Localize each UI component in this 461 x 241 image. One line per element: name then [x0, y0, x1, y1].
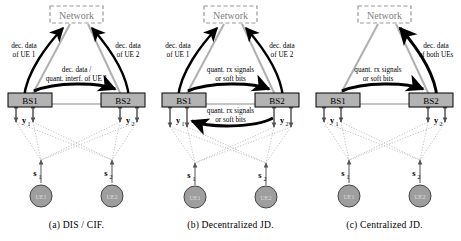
svg-text:of UE 2: of UE 2 — [271, 51, 294, 59]
bs1-label: BS1 — [22, 96, 38, 106]
ue1-signal-sub: 1 — [39, 174, 42, 180]
panel-dis-cif: Network dec. data of UE 1 dec. data of U… — [0, 0, 153, 241]
inter-bs-label: quant. rx signals or soft bits — [354, 66, 402, 83]
ue2-signal-label: s — [412, 168, 416, 178]
user-equipment-1: s 1 UE1 — [338, 160, 360, 207]
svg-text:dec. data: dec. data — [269, 42, 295, 50]
inter-bs-arrow — [342, 84, 423, 91]
ue1-signal-label: s — [33, 168, 37, 178]
svg-text:dec. data /: dec. data / — [62, 66, 91, 74]
svg-text:dec. data: dec. data — [11, 42, 37, 50]
svg-text:or soft bits: or soft bits — [215, 116, 246, 124]
channel-links — [324, 122, 445, 160]
inter-bs-label-upper: quant. rx signals or soft bits — [207, 66, 255, 83]
user-equipment-2: s 2 UE2 — [409, 160, 431, 207]
svg-text:of UE 1: of UE 1 — [13, 51, 36, 59]
bs1-signal-sub: 1 — [28, 121, 31, 127]
panel-c-caption: (c) Centralized JD. — [308, 219, 461, 230]
inter-bs-label: dec. data / quant. interf. of UE 1 — [46, 66, 108, 83]
ue1-signal-sub: 1 — [193, 176, 196, 182]
ue1-signal-label: s — [187, 170, 191, 180]
bs1-signal-sub: 1 — [182, 121, 185, 127]
figure-cooperative-detection-architectures: Network dec. data of UE 1 dec. data of U… — [0, 0, 461, 241]
inter-bs-label-lower: quant. rx signals or soft bits — [207, 107, 255, 124]
ue1-signal-label: s — [341, 168, 345, 178]
ue2-signal-sub: 2 — [110, 174, 113, 180]
ue2-signal-sub: 2 — [418, 174, 421, 180]
bs2-signal-label: y — [280, 115, 285, 125]
base-station-2: BS2 y 2 — [409, 93, 453, 127]
svg-text:or soft bits: or soft bits — [363, 75, 394, 83]
base-station-2: BS2 y 2 — [101, 93, 145, 127]
network-label: Network — [367, 10, 402, 21]
network-node: Network — [358, 6, 411, 23]
uplink-label-left: dec. data of UE 1 — [11, 42, 37, 59]
svg-text:dec. data: dec. data — [423, 42, 449, 50]
bs1-signal-label: y — [330, 115, 335, 125]
network-label: Network — [59, 10, 94, 21]
svg-text:dec. data: dec. data — [115, 42, 141, 50]
svg-text:quant. rx signals: quant. rx signals — [207, 66, 255, 74]
bs2-signal-sub: 2 — [440, 121, 443, 127]
uplink-label-right: dec. data of UE 2 — [269, 42, 295, 59]
svg-text:of UE 2: of UE 2 — [117, 51, 140, 59]
ue2-signal-sub: 2 — [264, 176, 267, 182]
svg-text:quant. rx signals: quant. rx signals — [207, 107, 255, 115]
user-equipment-1: s 1 UE1 — [184, 163, 206, 208]
network-node: Network — [50, 6, 103, 23]
ue1-label: UE1 — [190, 195, 201, 201]
inter-bs-arrow — [34, 84, 115, 91]
bs1-signal-label: y — [22, 115, 27, 125]
ue1-signal-sub: 1 — [347, 174, 350, 180]
bs1-signal-sub: 1 — [336, 121, 339, 127]
bs2-label: BS2 — [115, 96, 131, 106]
bs2-signal-label: y — [126, 115, 131, 125]
svg-text:of UE 1: of UE 1 — [167, 51, 190, 59]
base-station-1: BS1 y 1 — [8, 93, 52, 127]
user-equipment-2: s 2 UE2 — [101, 160, 123, 207]
uplink-label-right: dec. data of both UEs — [419, 42, 454, 59]
network-node: Network — [204, 6, 257, 23]
inter-bs-arrow-forward — [188, 84, 269, 91]
bs1-label: BS1 — [176, 96, 192, 106]
uplink-label-right: dec. data of UE 2 — [115, 42, 141, 59]
channel-links — [16, 122, 137, 160]
panel-c-diagram: Network dec. data of both UEs quant. rx … — [308, 0, 461, 215]
base-station-1: BS1 y 1 — [316, 93, 360, 127]
ue2-label: UE2 — [415, 194, 426, 200]
bs2-label: BS2 — [423, 96, 439, 106]
ue2-signal-label: s — [258, 170, 262, 180]
bs1-signal-label: y — [176, 115, 181, 125]
bs2-label: BS2 — [269, 96, 285, 106]
bs2-signal-sub: 2 — [132, 121, 135, 127]
panel-b-caption: (b) Decentralized JD. — [154, 219, 307, 230]
svg-text:of both UEs: of both UEs — [419, 51, 454, 59]
svg-text:quant. interf. of UE 1: quant. interf. of UE 1 — [46, 75, 108, 83]
svg-text:or soft bits: or soft bits — [215, 75, 246, 83]
panel-decentralized-jd: Network dec. data of UE 1 dec. data of U… — [154, 0, 307, 241]
uplink-label-left: dec. data of UE 1 — [165, 42, 191, 59]
panel-b-diagram: Network dec. data of UE 1 dec. data of U… — [154, 0, 307, 215]
panel-centralized-jd: Network dec. data of both UEs quant. rx … — [308, 0, 461, 241]
network-label: Network — [213, 10, 248, 21]
ue1-label: UE1 — [344, 194, 355, 200]
svg-text:dec. data: dec. data — [165, 42, 191, 50]
user-equipment-2: s 2 UE2 — [255, 163, 277, 208]
panel-a-caption: (a) DIS / CIF. — [0, 219, 153, 230]
ue2-signal-label: s — [104, 168, 108, 178]
ue2-label: UE2 — [107, 194, 118, 200]
bs2-signal-label: y — [434, 115, 439, 125]
channel-links — [170, 127, 291, 163]
svg-text:quant. rx signals: quant. rx signals — [354, 66, 402, 74]
bs2-signal-sub: 2 — [286, 121, 289, 127]
panel-a-diagram: Network dec. data of UE 1 dec. data of U… — [0, 0, 153, 215]
ue2-label: UE2 — [261, 195, 272, 201]
ue1-label: UE1 — [36, 194, 47, 200]
user-equipment-1: s 1 UE1 — [30, 160, 52, 207]
bs1-label: BS1 — [330, 96, 346, 106]
